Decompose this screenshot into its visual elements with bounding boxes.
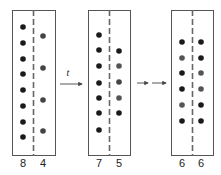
left-count: 7	[96, 157, 102, 169]
diffusion-diagram: 8 4 t 7 5	[0, 0, 221, 175]
right-particles	[116, 48, 122, 116]
right-count: 6	[198, 157, 204, 169]
panel-initial: 8 4	[13, 10, 56, 169]
right-particles	[198, 39, 204, 124]
right-count: 5	[116, 157, 122, 169]
time-label: t	[67, 67, 70, 78]
left-count: 6	[179, 157, 185, 169]
right-count: 4	[40, 157, 46, 169]
panel-equilibrium: 6 6	[172, 10, 214, 169]
left-particles	[179, 39, 185, 124]
left-particles	[96, 32, 102, 133]
left-count: 8	[20, 157, 26, 169]
time-arrow: t	[60, 67, 82, 84]
panel-intermediate: 7 5	[89, 10, 131, 169]
right-particles	[40, 33, 46, 134]
left-particles	[20, 24, 26, 140]
